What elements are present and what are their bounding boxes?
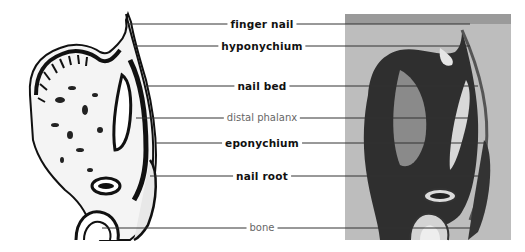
label-bone: bone	[247, 222, 278, 234]
line-drawing	[30, 14, 156, 240]
label-distal-phalanx: distal phalanx	[224, 112, 300, 124]
fingertip-diagram	[0, 0, 525, 252]
label-eponychium: eponychium	[222, 137, 302, 149]
label-hyponychium: hyponychium	[218, 40, 305, 52]
label-nail-root: nail root	[233, 170, 291, 182]
photomicrograph	[345, 14, 511, 240]
label-nail-bed: nail bed	[234, 80, 289, 92]
label-finger-nail: finger nail	[227, 18, 296, 30]
